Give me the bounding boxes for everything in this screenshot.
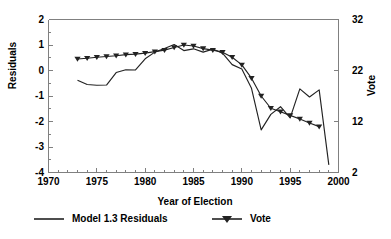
y-tick-label-right: 22 xyxy=(352,65,374,76)
y-tick-label-right: 32 xyxy=(352,14,374,25)
y-tick-label-left: 1 xyxy=(22,39,44,50)
x-tick-label: 1990 xyxy=(222,176,262,187)
y-tick-label-left: 0 xyxy=(22,65,44,76)
y-tick-label-left: -2 xyxy=(22,116,44,127)
chart-figure: Residuals Vote Year of Election 19701975… xyxy=(0,0,391,239)
series-vote xyxy=(74,43,322,130)
data-series-group xyxy=(74,43,328,165)
y-tick-label-left: -4 xyxy=(22,167,44,178)
y-tick-label-left: -1 xyxy=(22,90,44,101)
legend-label-vote: Vote xyxy=(250,213,271,224)
y-tick-label-right: 12 xyxy=(352,116,374,127)
chart-legend: Model 1.3 Residuals Vote xyxy=(0,210,391,232)
legend-line-triangle-swatch-icon xyxy=(210,213,244,225)
y-tick-label-right: 2 xyxy=(352,167,374,178)
legend-line-swatch-icon xyxy=(32,213,66,225)
series-model-1-3-residuals xyxy=(78,44,329,164)
axis-frame xyxy=(49,20,339,173)
x-tick-label: 1980 xyxy=(125,176,165,187)
y-tick-label-left: -3 xyxy=(22,141,44,152)
data-point-marker xyxy=(248,76,254,81)
data-point-marker xyxy=(316,124,322,129)
x-tick-label: 2000 xyxy=(319,176,359,187)
x-tick-label: 1975 xyxy=(77,176,117,187)
plot-area xyxy=(0,0,391,239)
x-tick-label: 1985 xyxy=(174,176,214,187)
axis-ticks xyxy=(49,20,339,173)
legend-label-model-residuals: Model 1.3 Residuals xyxy=(72,213,168,224)
x-tick-label: 1970 xyxy=(29,176,69,187)
y-tick-label-left: 2 xyxy=(22,14,44,25)
x-tick-label: 1995 xyxy=(270,176,310,187)
